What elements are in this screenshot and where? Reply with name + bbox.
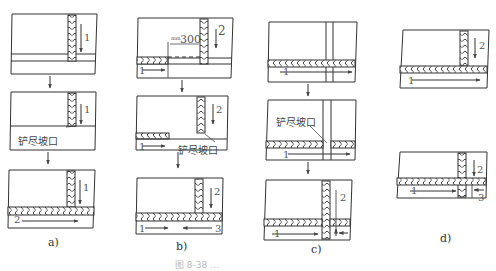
weld-order-label: 2 [218, 24, 226, 38]
panel-label-c: c) [311, 243, 321, 256]
weld-order-label: 2 [214, 186, 220, 197]
panel-a-step-3 [8, 170, 95, 228]
weld-order-label: 2 [14, 214, 20, 225]
weld-order-label: 1 [83, 182, 89, 193]
panel-c-step-2 [266, 100, 356, 160]
panel-a-step-1 [11, 14, 97, 74]
annotation-bevel: 铲尽坡口 [18, 133, 58, 148]
weld-order-label: 1 [139, 65, 145, 76]
weld-order-label: 3 [478, 192, 484, 203]
weld-order-label: 1 [283, 66, 289, 77]
annotation-bevel: 铲尽坡口 [276, 114, 316, 129]
panel-label-d: d) [440, 232, 451, 245]
panel-b-step-3 [136, 178, 223, 234]
weld-order-label: 1 [274, 228, 280, 239]
panel-c-step-1 [268, 22, 357, 82]
weld-order-label: 3 [215, 223, 221, 234]
weld-order-label: 2 [479, 40, 485, 51]
weld-order-label: 2 [340, 192, 346, 203]
weld-order-label: 1 [139, 141, 145, 152]
panel-label-b: b) [176, 240, 187, 253]
weld-order-label: 1 [139, 223, 145, 234]
weld-order-label: 1 [411, 185, 417, 196]
dimension-label: 300 [180, 33, 201, 46]
figure-caption: 图 8-38 … [175, 258, 219, 271]
annotation-bevel: 铲尽坡口 [178, 142, 218, 157]
weld-order-label: 1 [84, 32, 90, 43]
panel-label-a: a) [48, 236, 59, 249]
weld-order-label: 2 [477, 164, 483, 175]
weld-order-label: 1 [408, 75, 414, 86]
weld-order-label: 1 [84, 104, 90, 115]
weld-order-label: 2 [216, 104, 222, 115]
weld-order-label: 1 [283, 149, 289, 160]
